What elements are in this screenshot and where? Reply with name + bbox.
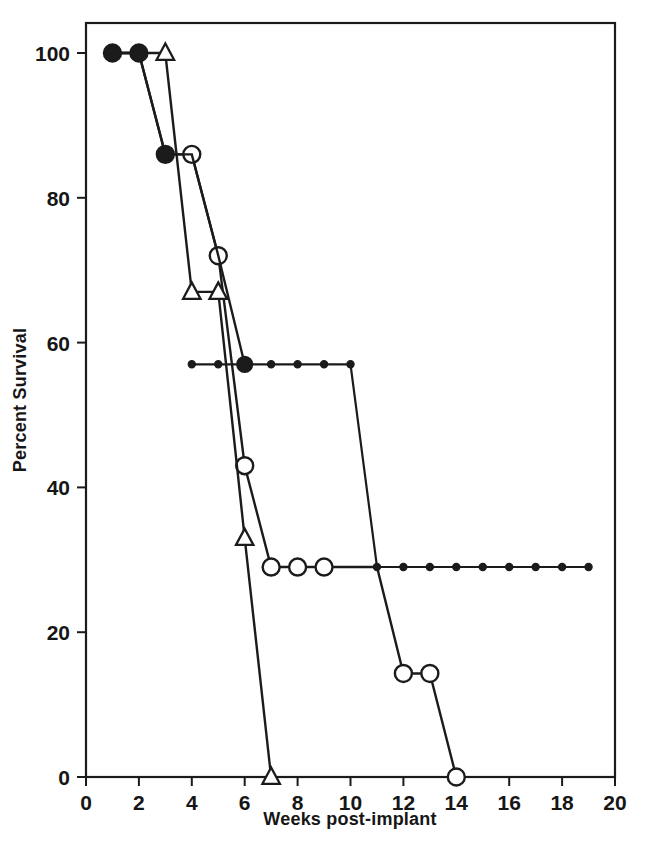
- series-path: [113, 53, 245, 364]
- x-tick-label: 4: [186, 791, 198, 814]
- marker-small-dot: [532, 563, 539, 570]
- y-tick-label: 40: [47, 476, 70, 499]
- marker-open-circle: [448, 769, 465, 786]
- data-series-layer: [104, 44, 592, 786]
- x-tick-label: 14: [445, 791, 469, 814]
- marker-open-circle: [421, 665, 438, 682]
- marker-small-dot: [506, 563, 513, 570]
- y-tick-label: 0: [58, 766, 70, 789]
- marker-small-dot: [426, 563, 433, 570]
- y-tick-label: 100: [35, 42, 70, 65]
- y-axis-tick-labels: 020406080100: [35, 42, 70, 789]
- marker-filled-circle: [105, 46, 120, 61]
- y-tick-label: 60: [47, 332, 70, 355]
- marker-open-circle: [395, 665, 412, 682]
- marker-small-dot: [373, 563, 380, 570]
- marker-open-circle: [289, 559, 306, 576]
- x-tick-label: 2: [133, 791, 145, 814]
- x-tick-label: 6: [239, 791, 251, 814]
- x-tick-label: 20: [603, 791, 626, 814]
- marker-open-triangle: [236, 529, 253, 545]
- x-axis-ticks: [86, 777, 615, 786]
- marker-open-circle: [263, 559, 280, 576]
- y-axis-ticks: [77, 53, 86, 777]
- marker-filled-circle: [158, 147, 173, 162]
- survival-curve-figure: 020406080100 02468101214161820 Weeks pos…: [0, 0, 646, 844]
- marker-filled-circle: [237, 357, 252, 372]
- marker-filled-circle: [131, 46, 146, 61]
- marker-open-triangle: [262, 768, 280, 784]
- y-axis-title: Percent Survival: [10, 328, 30, 472]
- x-tick-label: 0: [80, 791, 92, 814]
- marker-small-dot: [320, 361, 327, 368]
- marker-small-dot: [585, 563, 592, 570]
- series-filled-circle-series: [105, 46, 252, 372]
- marker-small-dot: [559, 563, 566, 570]
- marker-open-triangle: [157, 44, 175, 60]
- marker-small-dot: [453, 563, 460, 570]
- plot-frame: [86, 23, 615, 777]
- marker-small-dot: [215, 361, 222, 368]
- y-tick-label: 80: [47, 187, 70, 210]
- marker-small-dot: [400, 563, 407, 570]
- y-tick-label: 20: [47, 621, 70, 644]
- x-tick-label: 16: [498, 791, 521, 814]
- marker-open-circle: [316, 559, 333, 576]
- marker-small-dot: [294, 361, 301, 368]
- marker-small-dot: [347, 361, 354, 368]
- marker-open-triangle: [183, 282, 200, 298]
- marker-small-dot: [188, 361, 195, 368]
- chart-canvas: 020406080100 02468101214161820 Weeks pos…: [0, 0, 646, 844]
- x-tick-label: 18: [550, 791, 574, 814]
- marker-small-dot: [268, 361, 275, 368]
- marker-small-dot: [479, 563, 486, 570]
- x-axis-title: Weeks post-implant: [263, 809, 436, 829]
